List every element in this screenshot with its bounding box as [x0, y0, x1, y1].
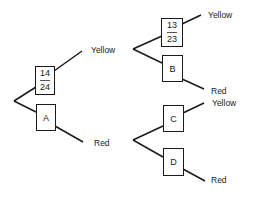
probability-box-d: D	[163, 148, 184, 176]
outcome-label-yellow: Yellow	[212, 98, 236, 108]
probability-box-13-23: 13 23	[161, 18, 183, 47]
fraction-bar	[40, 80, 50, 81]
outcome-label-yellow: Yellow	[91, 45, 115, 55]
outcome-label-red: Red	[211, 86, 227, 96]
probability-box-14-24: 14 24	[35, 66, 55, 95]
probability-box-b: B	[162, 55, 183, 82]
box-label: D	[170, 157, 177, 167]
outcome-label-red: Red	[94, 138, 110, 148]
outcome-label-red: Red	[211, 175, 227, 185]
fraction-bar	[167, 32, 177, 33]
probability-box-c: C	[163, 105, 184, 132]
box-label: B	[169, 64, 175, 74]
numerator: 13	[167, 20, 177, 31]
box-label: A	[43, 113, 49, 123]
numerator: 14	[40, 68, 50, 79]
box-label: C	[170, 114, 177, 124]
probability-box-a: A	[36, 104, 56, 131]
outcome-label-yellow: Yellow	[208, 10, 232, 20]
denominator: 24	[40, 82, 50, 93]
denominator: 23	[167, 34, 177, 45]
